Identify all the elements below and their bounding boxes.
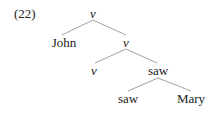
- tree-node-v1: v: [123, 36, 129, 49]
- tree-node-v2: v: [91, 64, 97, 77]
- tree-node-saw1: saw: [148, 64, 168, 77]
- tree-node-mary: Mary: [177, 92, 205, 105]
- syntax-tree-figure: (22) v John v v saw saw Mary: [0, 0, 218, 113]
- edge-v1-saw1: [126, 49, 157, 63]
- edge-saw1-saw2: [128, 78, 158, 91]
- edge-v1-v2: [95, 49, 126, 63]
- edge-saw1-mary: [158, 78, 191, 91]
- edge-root-john: [62, 20, 93, 35]
- example-number: (22): [14, 7, 36, 20]
- tree-node-john: John: [52, 36, 77, 49]
- tree-node-root: v: [90, 7, 96, 20]
- edge-root-v1: [93, 20, 126, 35]
- tree-node-saw2: saw: [118, 92, 138, 105]
